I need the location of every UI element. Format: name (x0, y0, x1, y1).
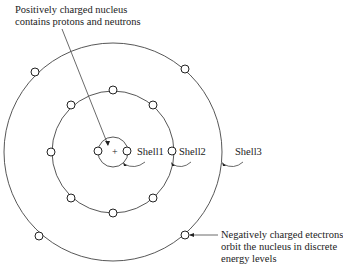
shell1-label: Shell1 (137, 146, 164, 158)
electron (168, 147, 176, 155)
electron (31, 68, 39, 76)
electron (123, 147, 131, 155)
electron (181, 231, 189, 239)
electron (181, 65, 189, 73)
nucleus-label: Positively charged nucleus contains prot… (15, 4, 141, 28)
electron (149, 194, 157, 202)
electron (67, 101, 75, 109)
electron (67, 194, 75, 202)
shell3-label: Shell3 (235, 146, 262, 158)
shell1-pointer (124, 162, 145, 167)
shell3-pointer (223, 162, 243, 167)
electron-label: Negatively charged etectrons orbit the n… (221, 229, 343, 265)
electron (149, 101, 157, 109)
electron (94, 147, 102, 155)
electron (109, 209, 117, 217)
electron (47, 148, 55, 156)
electron (35, 232, 43, 240)
shell2-label: Shell2 (179, 146, 206, 158)
electron (109, 86, 117, 94)
nucleus-plus-sign: + (112, 146, 118, 158)
